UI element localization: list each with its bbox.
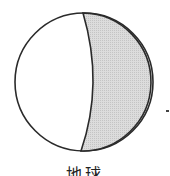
earth-phase-diagram	[0, 0, 170, 176]
diagram-caption: 地球	[0, 161, 170, 176]
edge-mark	[166, 110, 169, 112]
